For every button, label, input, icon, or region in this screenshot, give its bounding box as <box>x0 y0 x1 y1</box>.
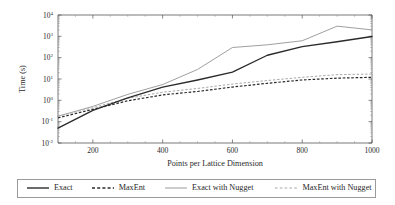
x-axis-tick-labels: 2004006008001000 <box>87 146 380 155</box>
x-axis-title: Points per Lattice Dimension <box>167 159 263 168</box>
y-axis-title: Time (s) <box>18 65 27 93</box>
y-tick-label: 103 <box>43 32 53 41</box>
legend-label-maxent-with-nugget: MaxEnt with Nugget <box>302 184 371 192</box>
legend-swatch-maxent-with-nugget <box>275 184 297 192</box>
legend-item-exact: Exact <box>27 184 73 192</box>
legend-label-exact-with-nugget: Exact with Nugget <box>192 184 253 192</box>
legend-swatch-exact <box>27 184 49 192</box>
plot-axes <box>58 15 372 143</box>
y-tick-label: 101 <box>43 75 53 84</box>
plot-background <box>58 15 372 143</box>
legend-item-maxent-with-nugget: MaxEnt with Nugget <box>275 184 371 192</box>
x-tick-label: 400 <box>157 146 169 155</box>
legend-swatch-exact-with-nugget <box>165 184 187 192</box>
y-tick-label: 10-1 <box>41 117 53 126</box>
x-tick-label: 200 <box>87 146 99 155</box>
figure-container: 10-210-1100101102103104 2004006008001000… <box>0 0 395 205</box>
chart-legend: Exact MaxEnt Exact with Nugget MaxEnt wi… <box>17 179 376 198</box>
y-tick-label: 10-2 <box>41 139 53 148</box>
legend-item-maxent: MaxEnt <box>92 184 145 192</box>
y-tick-label: 102 <box>43 53 53 62</box>
legend-label-maxent: MaxEnt <box>119 184 145 192</box>
line-chart: 10-210-1100101102103104 2004006008001000… <box>0 0 395 205</box>
y-axis-tick-labels: 10-210-1100101102103104 <box>41 11 53 148</box>
x-tick-label: 800 <box>297 146 309 155</box>
legend-swatch-maxent <box>92 184 114 192</box>
y-tick-label: 104 <box>43 11 53 20</box>
legend-item-exact-with-nugget: Exact with Nugget <box>165 184 253 192</box>
legend-label-exact: Exact <box>54 184 73 192</box>
x-tick-label: 1000 <box>364 146 379 155</box>
x-tick-label: 600 <box>227 146 239 155</box>
y-tick-label: 100 <box>43 96 53 105</box>
